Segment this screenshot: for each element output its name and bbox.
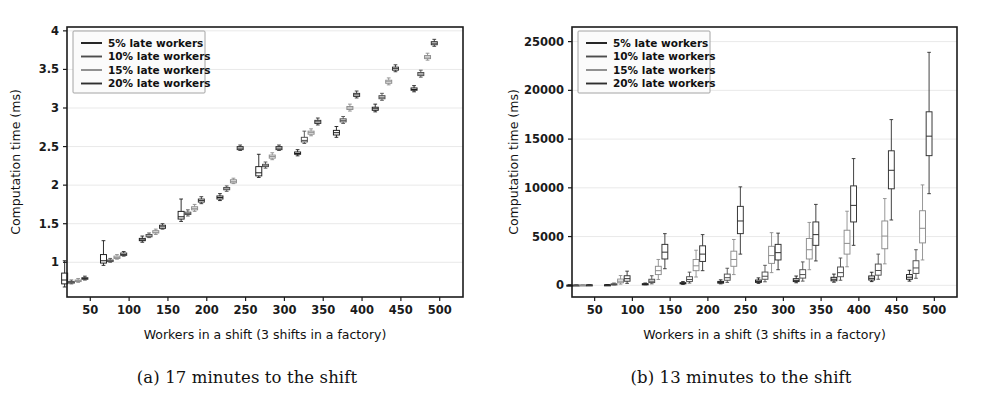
svg-text:300: 300: [272, 303, 296, 317]
boxplot-series-2: [68, 70, 423, 284]
panel-a: 5010015020025030035040045050011.522.533.…: [0, 0, 494, 420]
svg-text:5000: 5000: [532, 230, 564, 244]
svg-text:100: 100: [117, 303, 141, 317]
svg-text:10000: 10000: [524, 181, 564, 195]
svg-text:Workers in a shift (3 shifts i: Workers in a shift (3 shifts in a factor…: [643, 327, 886, 342]
svg-text:350: 350: [809, 303, 833, 317]
caption-b: (b) 13 minutes to the shift: [494, 368, 988, 387]
svg-text:0: 0: [556, 278, 564, 292]
svg-text:3: 3: [51, 101, 59, 115]
panel-b: 5010015020025030035040045050005000100001…: [494, 0, 988, 420]
chart-legend: 5% late workers10% late workers15% late …: [578, 31, 716, 93]
svg-text:300: 300: [771, 303, 795, 317]
svg-text:500: 500: [428, 303, 452, 317]
svg-text:450: 450: [885, 303, 909, 317]
svg-text:200: 200: [696, 303, 720, 317]
chart-a-svg: 5010015020025030035040045050011.522.533.…: [0, 0, 494, 358]
svg-text:Computation time (ms): Computation time (ms): [506, 89, 521, 235]
svg-text:Workers in a shift (3 shifts i: Workers in a shift (3 shifts in a factor…: [144, 327, 387, 342]
figure-two-panel-boxplots: 5010015020025030035040045050011.522.533.…: [0, 0, 988, 420]
svg-text:450: 450: [389, 303, 413, 317]
svg-text:50: 50: [82, 303, 98, 317]
svg-text:10% late workers: 10% late workers: [613, 50, 716, 62]
svg-text:1: 1: [51, 255, 59, 269]
svg-text:2.5: 2.5: [39, 140, 59, 154]
svg-text:3.5: 3.5: [39, 62, 59, 76]
svg-text:150: 150: [658, 303, 682, 317]
chart-b-area: 5010015020025030035040045050005000100001…: [494, 0, 988, 358]
caption-a: (a) 17 minutes to the shift: [0, 368, 494, 387]
svg-text:Computation time (ms): Computation time (ms): [8, 89, 23, 235]
svg-text:350: 350: [311, 303, 335, 317]
svg-text:5% late workers: 5% late workers: [613, 37, 708, 49]
svg-text:500: 500: [922, 303, 946, 317]
chart-a-area: 5010015020025030035040045050011.522.533.…: [0, 0, 494, 358]
svg-text:15% late workers: 15% late workers: [108, 64, 211, 76]
svg-text:20% late workers: 20% late workers: [108, 77, 211, 89]
svg-text:250: 250: [234, 303, 258, 317]
boxplot-series-3: [580, 185, 926, 286]
svg-text:10% late workers: 10% late workers: [108, 50, 211, 62]
svg-text:25000: 25000: [524, 35, 564, 49]
svg-text:150: 150: [156, 303, 180, 317]
svg-text:400: 400: [847, 303, 871, 317]
svg-text:2: 2: [51, 178, 59, 192]
svg-text:1.5: 1.5: [39, 217, 59, 231]
svg-text:400: 400: [350, 303, 374, 317]
svg-text:20000: 20000: [524, 83, 564, 97]
svg-text:50: 50: [587, 303, 603, 317]
svg-text:200: 200: [195, 303, 219, 317]
svg-text:5% late workers: 5% late workers: [108, 37, 203, 49]
svg-text:100: 100: [620, 303, 644, 317]
svg-text:250: 250: [734, 303, 758, 317]
chart-b-svg: 5010015020025030035040045050005000100001…: [494, 0, 988, 358]
svg-text:4: 4: [51, 24, 59, 38]
boxplot-series-1: [567, 270, 913, 286]
svg-text:15000: 15000: [524, 132, 564, 146]
svg-text:15% late workers: 15% late workers: [613, 64, 716, 76]
chart-legend: 5% late workers10% late workers15% late …: [73, 31, 211, 93]
svg-text:20% late workers: 20% late workers: [613, 77, 716, 89]
